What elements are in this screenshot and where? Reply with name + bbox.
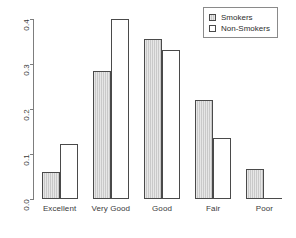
- x-axis-label-good: Good: [152, 204, 172, 213]
- bar-good-smokers: [144, 39, 162, 199]
- bar-poor-non-smokers: [264, 198, 282, 199]
- y-axis-tick-label: 0.0: [23, 199, 31, 226]
- x-axis-label-excellent: Excellent: [43, 204, 76, 213]
- legend-label-non-smokers: Non-Smokers: [221, 24, 270, 33]
- y-axis-tick-label: 0.1: [23, 154, 31, 181]
- y-axis-tick-label: 0.4: [23, 19, 31, 46]
- legend-item-smokers[interactable]: Smokers: [209, 12, 270, 22]
- bar-fair-non-smokers: [213, 138, 231, 199]
- empty-square-icon: [209, 25, 216, 32]
- y-axis-tick-label: 0.3: [23, 64, 31, 91]
- bar-excellent-non-smokers: [60, 144, 78, 199]
- bar-very-good-smokers: [93, 71, 111, 199]
- legend-label-smokers: Smokers: [221, 13, 253, 22]
- x-axis-label-very-good: Very Good: [91, 204, 130, 213]
- bar-very-good-non-smokers: [111, 19, 129, 199]
- barplot-figure: 0.00.10.20.30.4 ExcellentVery GoodGoodFa…: [0, 0, 296, 238]
- y-axis-tick-label: 0.2: [23, 109, 31, 136]
- bar-fair-smokers: [195, 100, 213, 199]
- plot-area: [34, 19, 290, 199]
- bar-poor-smokers: [246, 169, 264, 199]
- bar-good-non-smokers: [162, 50, 180, 199]
- chart-legend: Smokers Non-Smokers: [203, 7, 278, 38]
- filled-square-icon: [209, 14, 216, 21]
- x-axis-label-fair: Fair: [206, 204, 220, 213]
- x-axis-label-poor: Poor: [256, 204, 273, 213]
- bar-excellent-smokers: [42, 172, 60, 199]
- legend-item-non-smokers[interactable]: Non-Smokers: [209, 23, 270, 33]
